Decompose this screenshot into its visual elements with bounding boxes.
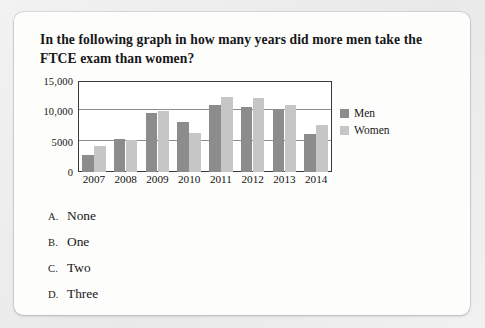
bar-women-2012 — [253, 98, 265, 172]
question-card: In the following graph in how many years… — [14, 12, 470, 315]
bar-group — [205, 81, 237, 172]
y-tick-label: 0 — [68, 167, 73, 178]
y-tick-label: 5000 — [52, 136, 73, 147]
bar-men-2012 — [241, 107, 253, 172]
x-axis: 20072008200920102011201220132014 — [78, 173, 332, 189]
bar-men-2009 — [146, 113, 158, 172]
bar-group — [173, 81, 205, 172]
bar-women-2011 — [221, 97, 233, 172]
legend-swatch-icon — [340, 109, 349, 118]
bar-men-2014 — [304, 134, 316, 172]
y-tick-label: 10,000 — [44, 106, 73, 117]
answer-options: A.NoneB.OneC.TwoD.Three — [48, 208, 308, 312]
option-d[interactable]: D.Three — [48, 286, 308, 312]
legend-swatch-icon — [340, 126, 349, 135]
bar-women-2009 — [158, 111, 170, 172]
bar-group — [300, 81, 332, 172]
option-label: Two — [67, 260, 91, 276]
bar-women-2008 — [126, 140, 138, 172]
bar-women-2010 — [189, 133, 201, 172]
bar-women-2007 — [94, 146, 106, 172]
option-label: One — [67, 234, 89, 250]
bars-layer — [78, 81, 332, 172]
bar-chart: 0500010,00015,000 2007200820092010201120… — [26, 74, 446, 192]
bar-men-2013 — [273, 110, 285, 172]
bar-group — [142, 81, 174, 172]
x-tick-label: 2011 — [210, 173, 232, 185]
question-prompt: In the following graph in how many years… — [40, 30, 440, 68]
bar-group — [110, 81, 142, 172]
option-letter: D. — [48, 289, 67, 300]
legend-label: Women — [354, 125, 389, 137]
option-label: None — [67, 208, 96, 224]
option-a[interactable]: A.None — [48, 208, 308, 234]
option-label: Three — [67, 286, 98, 302]
option-b[interactable]: B.One — [48, 234, 308, 260]
legend-item-women: Women — [340, 123, 440, 138]
option-letter: C. — [48, 263, 67, 274]
x-tick-label: 2014 — [305, 173, 327, 185]
legend-label: Men — [354, 108, 375, 120]
bar-men-2011 — [209, 105, 221, 172]
option-letter: A. — [48, 211, 67, 222]
bar-group — [78, 81, 110, 172]
x-tick-label: 2010 — [178, 173, 200, 185]
x-tick-label: 2012 — [241, 173, 263, 185]
bar-men-2007 — [82, 155, 94, 172]
bar-men-2008 — [114, 139, 126, 172]
y-axis: 0500010,00015,000 — [26, 74, 76, 174]
chart-legend: MenWomen — [340, 106, 440, 140]
legend-item-men: Men — [340, 106, 440, 121]
bar-men-2010 — [177, 122, 189, 172]
y-tick-label: 15,000 — [44, 76, 73, 87]
bar-group — [269, 81, 301, 172]
x-tick-label: 2008 — [114, 173, 136, 185]
x-tick-label: 2009 — [146, 173, 168, 185]
x-tick-label: 2007 — [83, 173, 105, 185]
x-tick-label: 2013 — [273, 173, 295, 185]
option-letter: B. — [48, 237, 67, 248]
bar-group — [237, 81, 269, 172]
bar-women-2014 — [316, 125, 328, 172]
option-c[interactable]: C.Two — [48, 260, 308, 286]
bar-women-2013 — [285, 105, 297, 172]
